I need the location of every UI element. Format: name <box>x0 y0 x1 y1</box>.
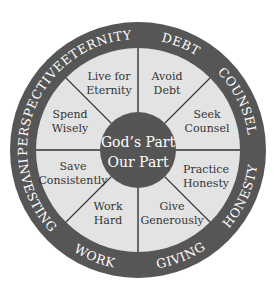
stewardship-wheel-diagram: God’s Part Our Part Live forEternityAvoi… <box>0 0 279 297</box>
hub-line-2: Our Part <box>107 154 168 170</box>
sector-label: PracticeHonesty <box>183 163 230 190</box>
sector-label: SpendWisely <box>52 108 89 135</box>
sector-label: Live forEternity <box>86 70 132 97</box>
sector-label: WorkHard <box>93 200 122 227</box>
center-hub <box>100 112 176 188</box>
sector-label: AvoidDebt <box>151 70 183 97</box>
hub-line-1: God’s Part <box>101 134 175 150</box>
